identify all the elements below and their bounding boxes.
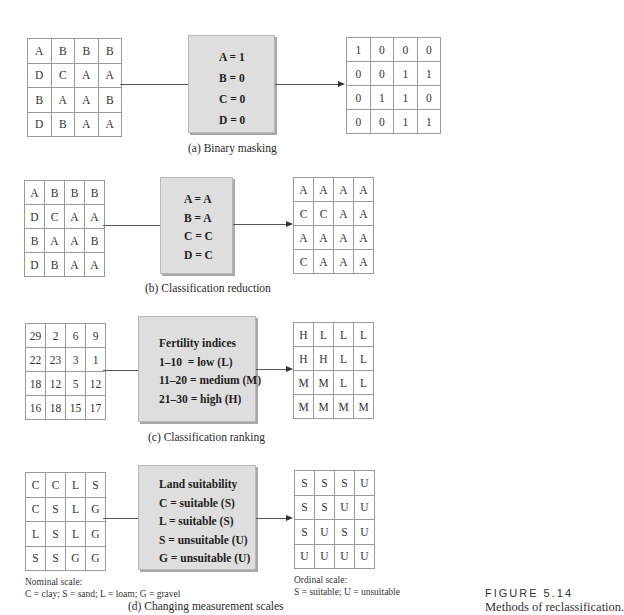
- grid-cell: S: [295, 471, 315, 496]
- panel-d-input-grid: CCLSCSLGLSLGSSGG: [25, 472, 106, 571]
- grid-cell: B: [25, 229, 45, 253]
- grid-cell: 1: [417, 62, 441, 86]
- grid-cell: L: [334, 347, 354, 371]
- grid-cell: S: [315, 471, 335, 496]
- panel-d-connector-out: [256, 518, 287, 519]
- grid-cell: 22: [26, 348, 46, 372]
- grid-cell: C: [51, 63, 75, 88]
- grid-cell: M: [314, 371, 334, 395]
- panel-b-input-grid: ABBBDCAABAABDBAA: [24, 180, 105, 277]
- grid-cell: S: [335, 520, 355, 545]
- grid-cell: D: [25, 253, 45, 277]
- rule-title: Land suitability: [159, 475, 250, 494]
- grid-row: 1812512: [26, 372, 106, 396]
- grid-cell: 0: [347, 62, 371, 86]
- rule-line: C = C: [184, 227, 213, 246]
- grid-cell: C: [26, 497, 46, 522]
- grid-cell: 17: [86, 396, 106, 420]
- note-title: Nominal scale:: [25, 576, 180, 588]
- grid-cell: 18: [46, 396, 66, 420]
- panel-d-caption: (d) Changing measurement scales: [128, 600, 284, 612]
- grid-row: 0011: [347, 62, 441, 86]
- grid-row: SSGG: [26, 546, 106, 571]
- grid-cell: A: [334, 226, 354, 250]
- grid-row: 0011: [347, 110, 441, 134]
- rule-line: D = C: [184, 246, 213, 265]
- grid-cell: C: [294, 202, 314, 226]
- grid-cell: G: [86, 546, 106, 571]
- grid-cell: U: [315, 520, 335, 545]
- grid-cell: U: [355, 495, 375, 520]
- grid-cell: A: [334, 178, 354, 202]
- grid-row: 222331: [26, 348, 106, 372]
- grid-row: SUSU: [295, 520, 375, 545]
- grid-row: ABBB: [25, 181, 105, 205]
- figure-label: FIGURE 5.14: [485, 587, 573, 599]
- grid-cell: U: [355, 544, 375, 569]
- rule-line: B = 0: [219, 68, 245, 89]
- grid-cell: M: [314, 395, 334, 419]
- panel-d-output-note: Ordinal scale: S = suitable; U = unsuita…: [294, 574, 400, 598]
- grid-cell: B: [51, 39, 75, 64]
- grid-cell: B: [75, 39, 99, 64]
- grid-cell: A: [28, 39, 52, 64]
- grid-row: HLLL: [294, 323, 374, 347]
- grid-cell: 1: [347, 38, 371, 62]
- grid-row: AAAA: [294, 178, 374, 202]
- grid-cell: A: [75, 63, 99, 88]
- panel-b-caption: (b) Classification reduction: [145, 282, 271, 294]
- grid-cell: A: [98, 63, 122, 88]
- grid-cell: A: [314, 178, 334, 202]
- grid-cell: 0: [417, 86, 441, 110]
- grid-cell: 1: [370, 86, 394, 110]
- grid-cell: 0: [347, 86, 371, 110]
- grid-cell: 1: [394, 86, 418, 110]
- grid-cell: G: [66, 546, 86, 571]
- grid-row: MMMM: [294, 395, 374, 419]
- grid-cell: A: [98, 112, 122, 137]
- grid-cell: G: [86, 522, 106, 547]
- grid-cell: L: [26, 522, 46, 547]
- grid-cell: 1: [417, 110, 441, 134]
- grid-cell: A: [354, 250, 374, 274]
- grid-cell: U: [335, 495, 355, 520]
- grid-cell: M: [294, 395, 314, 419]
- grid-cell: B: [85, 229, 105, 253]
- grid-cell: A: [85, 253, 105, 277]
- panel-d-output-grid: SSSUSSUUSUSUUUUU: [294, 470, 375, 569]
- panel-c-input-grid: 29269222331181251216181517: [25, 323, 106, 420]
- grid-cell: D: [28, 112, 52, 137]
- rule-line: S = unsuitable (U): [159, 531, 250, 550]
- grid-row: HHLL: [294, 347, 374, 371]
- grid-cell: A: [354, 178, 374, 202]
- rule-line: C = suitable (S): [159, 494, 250, 513]
- grid-cell: A: [294, 226, 314, 250]
- note-title: Ordinal scale:: [294, 574, 400, 586]
- grid-cell: A: [51, 88, 75, 113]
- grid-row: MMLL: [294, 371, 374, 395]
- grid-cell: S: [86, 473, 106, 498]
- rule-line: A = 1: [219, 47, 245, 68]
- grid-row: 0110: [347, 86, 441, 110]
- grid-cell: 12: [46, 372, 66, 396]
- rule-title: Fertility indices: [159, 334, 261, 353]
- note-legend: C = clay; S = sand; L = loam; G = gravel: [25, 588, 180, 600]
- rule-line: A = A: [184, 190, 213, 209]
- grid-cell: A: [334, 202, 354, 226]
- grid-cell: 29: [26, 324, 46, 348]
- rule-line: 1–10 = low (L): [159, 353, 261, 372]
- panel-c-connector-in: [103, 370, 138, 371]
- panel-c-caption: (c) Classification ranking: [148, 431, 265, 443]
- grid-cell: A: [75, 112, 99, 137]
- grid-cell: M: [334, 395, 354, 419]
- grid-cell: 16: [26, 396, 46, 420]
- rule-line: 11–20 = medium (M): [159, 371, 261, 390]
- grid-cell: 6: [66, 324, 86, 348]
- grid-row: 1000: [347, 38, 441, 62]
- panel-b-rules: A = A B = A C = C D = C: [184, 190, 213, 264]
- grid-cell: H: [294, 323, 314, 347]
- grid-cell: 5: [66, 372, 86, 396]
- panel-d-rules: Land suitability C = suitable (S) L = su…: [159, 475, 250, 568]
- grid-row: 29269: [26, 324, 106, 348]
- panel-a-rules: A = 1 B = 0 C = 0 D = 0: [219, 47, 245, 131]
